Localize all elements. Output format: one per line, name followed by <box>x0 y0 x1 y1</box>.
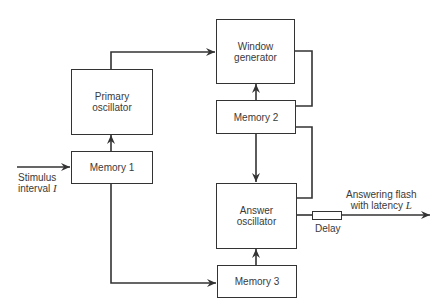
answer-oscillator-label-2: oscillator <box>237 216 276 227</box>
delay-block <box>312 211 342 220</box>
primary-to-window-arrow <box>111 52 215 69</box>
memory1-label: Memory 1 <box>90 162 134 173</box>
window-generator-label-1: Window <box>234 41 277 52</box>
answer-oscillator-block: Answer oscillator <box>216 183 297 249</box>
primary-oscillator-label-2: oscillator <box>92 102 131 113</box>
memory2-block: Memory 2 <box>216 100 296 134</box>
primary-oscillator-block: Primary oscillator <box>71 69 153 135</box>
stimulus-label-2: interval I <box>18 183 57 194</box>
window-generator-block: Window generator <box>216 19 295 84</box>
stimulus-label-1: Stimulus <box>18 172 57 183</box>
delay-label: Delay <box>315 223 341 234</box>
primary-oscillator-label-1: Primary <box>92 91 131 102</box>
memory1-to-memory3-arrow <box>111 183 216 283</box>
latency-variable: L <box>406 199 412 211</box>
stimulus-input-label: Stimulus interval I <box>18 172 57 194</box>
answer-oscillator-label-1: Answer <box>237 205 276 216</box>
memory2-label: Memory 2 <box>234 112 278 123</box>
memory3-label: Memory 3 <box>235 276 279 287</box>
window-to-memory2-line <box>294 51 312 106</box>
memory3-block: Memory 3 <box>217 265 297 298</box>
output-label: Answering flash with latency L <box>346 189 417 211</box>
output-label-2: with latency L <box>346 200 417 211</box>
memory1-block: Memory 1 <box>71 151 153 184</box>
memory2-to-answer-line <box>295 127 312 198</box>
interval-variable: I <box>53 182 57 194</box>
window-generator-label-2: generator <box>234 52 277 63</box>
